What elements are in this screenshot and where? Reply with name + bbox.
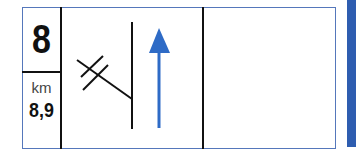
- lane-diagram: [0, 0, 356, 156]
- straight-arrow-icon: [149, 28, 170, 128]
- exit-ramp-icon: [77, 22, 132, 129]
- side-bar: [347, 0, 356, 147]
